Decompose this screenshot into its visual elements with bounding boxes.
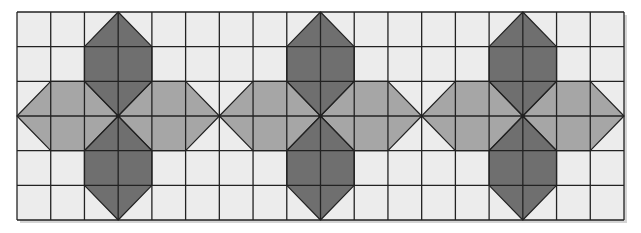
tessellation-figure [0, 0, 641, 233]
grid-diagram [0, 0, 641, 233]
